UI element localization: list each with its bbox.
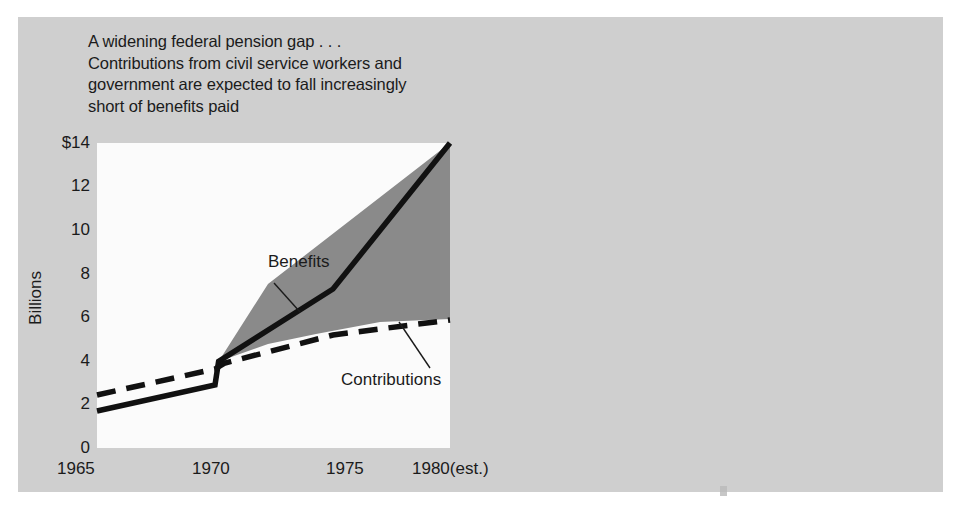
right-chart-graphics bbox=[520, 0, 955, 510]
left-chart-graphics bbox=[0, 0, 520, 510]
contributions-label: Contributions bbox=[341, 370, 441, 390]
pension-gap-figure: A widening federal pension gap . . . Con… bbox=[0, 0, 955, 510]
right-chart-panel: . . .and unfunded liabilities They will … bbox=[520, 0, 955, 510]
left-chart-panel: A widening federal pension gap . . . Con… bbox=[0, 0, 520, 510]
contributions-leader-line bbox=[399, 322, 430, 368]
scan-artifact bbox=[720, 486, 727, 496]
benefits-label: Benefits bbox=[268, 252, 329, 272]
gap-fill-area bbox=[219, 143, 450, 362]
